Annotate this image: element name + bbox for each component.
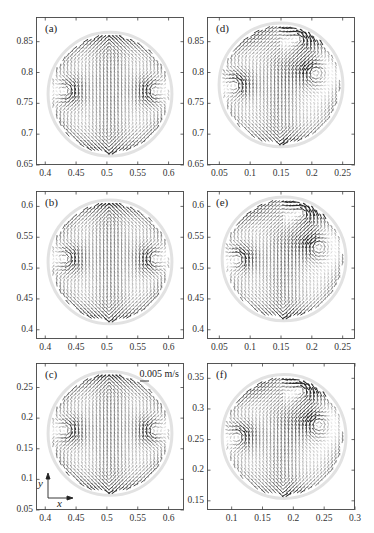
y-tick-label: 0.8 <box>192 67 204 77</box>
x-tick-label: 0.55 <box>129 342 146 352</box>
panel-label: (a) <box>45 22 57 34</box>
panel-label: (f) <box>216 368 227 380</box>
x-tick-label: 0.15 <box>273 168 290 178</box>
x-tick-label: 0.6 <box>163 513 175 523</box>
y-tick-label: 0.2 <box>21 412 33 422</box>
y-tick-label: 0.45 <box>16 293 33 303</box>
x-tick-label: 0.5 <box>101 342 113 352</box>
panel-label: (e) <box>216 196 228 208</box>
y-tick-label: 0.45 <box>187 293 204 303</box>
y-tick-label: 0.8 <box>21 67 33 77</box>
y-tick-label: 0.85 <box>16 36 33 46</box>
quiver-plot <box>36 191 184 339</box>
x-tick-label: 0.55 <box>129 513 146 523</box>
y-tick-label: 0.7 <box>21 128 33 138</box>
y-tick-label: 0.1 <box>21 473 33 483</box>
x-tick-label: 0.45 <box>68 513 85 523</box>
x-tick-label: 0.4 <box>39 168 51 178</box>
y-tick-label: 0.3 <box>192 403 204 413</box>
x-tick-label: 0.15 <box>273 342 290 352</box>
y-tick-label: 0.2 <box>192 464 204 474</box>
x-tick-label: 0.4 <box>39 513 51 523</box>
x-tick-label: 0.15 <box>254 513 271 523</box>
x-tick-label: 0.1 <box>244 342 256 352</box>
y-axis-letter: y <box>38 477 43 489</box>
scale-bar-label: 0.005 m/s <box>140 368 179 379</box>
x-axis-letter: x <box>57 497 62 509</box>
x-tick-label: 0.05 <box>211 168 228 178</box>
x-tick-label: 0.2 <box>306 342 318 352</box>
y-tick-label: 0.25 <box>187 434 204 444</box>
x-tick-label: 0.45 <box>68 342 85 352</box>
x-tick-label: 0.6 <box>163 168 175 178</box>
panel-a: 0.40.450.50.550.60.650.70.750.80.85(a) <box>36 17 184 165</box>
x-tick-label: 0.45 <box>68 168 85 178</box>
y-tick-label: 0.55 <box>16 231 33 241</box>
y-tick-label: 0.5 <box>21 262 33 272</box>
x-tick-label: 0.5 <box>101 513 113 523</box>
y-tick-label: 0.65 <box>187 159 204 169</box>
x-tick-label: 0.4 <box>39 342 51 352</box>
x-tick-label: 0.6 <box>163 342 175 352</box>
y-tick-label: 0.4 <box>192 324 204 334</box>
y-tick-label: 0.65 <box>16 159 33 169</box>
axis-indicator-icon <box>46 473 73 500</box>
y-tick-label: 0.6 <box>192 200 204 210</box>
x-tick-label: 0.25 <box>316 513 333 523</box>
y-tick-label: 0.5 <box>192 262 204 272</box>
x-tick-label: 0.25 <box>334 342 351 352</box>
y-tick-label: 0.85 <box>187 36 204 46</box>
y-tick-label: 0.25 <box>16 382 33 392</box>
x-tick-label: 0.1 <box>226 513 238 523</box>
y-tick-label: 0.15 <box>187 495 204 505</box>
quiver-plot <box>207 17 355 165</box>
y-tick-label: 0.6 <box>21 200 33 210</box>
y-tick-label: 0.05 <box>16 504 33 514</box>
y-tick-label: 0.7 <box>192 128 204 138</box>
panel-b: 0.40.450.50.550.60.40.450.50.550.6(b) <box>36 191 184 339</box>
panel-d: 0.050.10.150.20.250.650.70.750.80.85(d) <box>207 17 355 165</box>
x-tick-label: 0.3 <box>349 513 361 523</box>
y-tick-label: 0.15 <box>16 443 33 453</box>
panel-e: 0.050.10.150.20.250.40.450.50.550.6(e) <box>207 191 355 339</box>
quiver-plot <box>207 363 355 510</box>
quiver-plot <box>36 363 184 510</box>
x-tick-label: 0.05 <box>211 342 228 352</box>
panel-label: (d) <box>216 22 229 34</box>
y-tick-label: 0.75 <box>187 97 204 107</box>
x-tick-label: 0.1 <box>244 168 256 178</box>
x-tick-label: 0.2 <box>306 168 318 178</box>
panel-label: (b) <box>45 196 58 208</box>
x-tick-label: 0.5 <box>101 168 113 178</box>
y-tick-label: 0.55 <box>187 231 204 241</box>
y-tick-label: 0.4 <box>21 324 33 334</box>
x-tick-label: 0.55 <box>129 168 146 178</box>
x-tick-label: 0.2 <box>287 513 299 523</box>
quiver-plot <box>207 191 355 339</box>
panel-f: 0.10.150.20.250.30.150.20.250.30.35(f) <box>207 363 355 510</box>
quiver-plot <box>36 17 184 165</box>
y-tick-label: 0.75 <box>16 97 33 107</box>
panel-label: (c) <box>45 368 57 380</box>
x-tick-label: 0.25 <box>334 168 351 178</box>
y-tick-label: 0.35 <box>187 372 204 382</box>
panel-c: 0.40.450.50.550.60.050.10.150.20.25(c)0.… <box>36 363 184 510</box>
